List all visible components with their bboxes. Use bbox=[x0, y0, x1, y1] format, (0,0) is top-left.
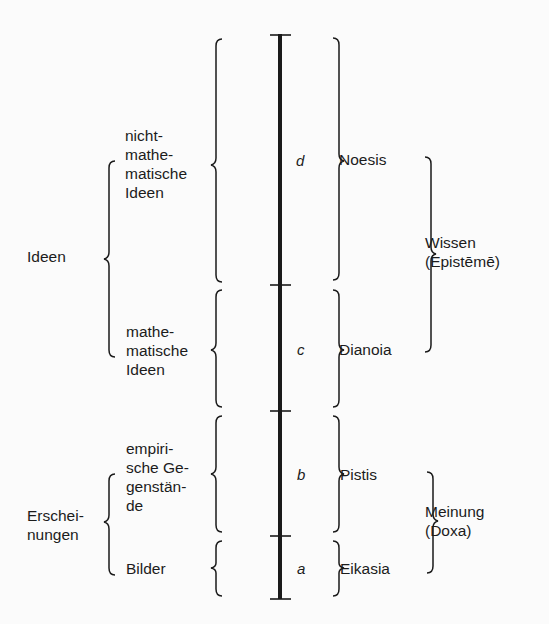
brace-left-d bbox=[211, 39, 222, 282]
object-label-a: Bilder bbox=[126, 559, 166, 578]
divided-line-diagram: d c b a nicht- mathe- matische Ideen mat… bbox=[0, 0, 549, 624]
segment-letter-c: c bbox=[297, 340, 305, 359]
segment-letter-a: a bbox=[297, 559, 305, 578]
brace-left-c bbox=[211, 290, 222, 407]
segment-letter-d: d bbox=[296, 151, 304, 170]
brace-left-b bbox=[211, 416, 222, 532]
faculty-label-pistis: Pistis bbox=[340, 465, 377, 484]
object-label-b: empiri- sche Ge- genstän- de bbox=[126, 439, 189, 515]
brace-erscheinungen bbox=[104, 474, 115, 575]
object-label-d: nicht- mathe- matische Ideen bbox=[125, 126, 187, 202]
brace-left-a bbox=[211, 541, 222, 596]
faculty-label-dianoia: Dianoia bbox=[339, 340, 392, 359]
object-label-c: mathe- matische Ideen bbox=[126, 322, 188, 379]
faculty-label-eikasia: Eikasia bbox=[340, 559, 390, 578]
segment-letter-b: b bbox=[297, 465, 305, 484]
brace-ideen bbox=[104, 161, 115, 357]
group-label-ideen: Ideen bbox=[27, 247, 66, 266]
group-label-meinung: Meinung (Doxa) bbox=[425, 502, 484, 540]
faculty-label-noesis: Noesis bbox=[339, 150, 386, 169]
group-label-wissen: Wissen (Epistēmē) bbox=[425, 233, 500, 271]
group-label-erscheinungen: Erschei- nungen bbox=[27, 506, 84, 544]
